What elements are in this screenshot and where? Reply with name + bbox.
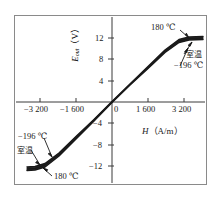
y-axis-title: Eout（V） xyxy=(68,24,81,62)
y-axis-subscript: out xyxy=(74,49,80,57)
annotation-roomtemp-top: 室温 xyxy=(186,48,202,59)
y-axis-symbol: E xyxy=(70,56,80,62)
y-tick-label-neg-12: −12 xyxy=(89,161,102,171)
figure-canvas: Eout（V） H（A/m） −3 200 −1 600 0 1 600 3 2… xyxy=(0,0,222,200)
y-tick-label-neg-4: −4 xyxy=(93,118,102,128)
y-axis-unit: （V） xyxy=(70,24,80,49)
y-tick-label-4: 4 xyxy=(99,76,103,86)
plot-surface xyxy=(0,0,222,200)
x-tick-label-neg-3200: −3 200 xyxy=(24,104,48,114)
x-tick-label-neg-1600: −1 600 xyxy=(60,104,84,114)
y-tick-label-8: 8 xyxy=(99,54,103,64)
annotation-minus196c-bottom: −196 ℃ xyxy=(18,131,47,141)
arrowhead-180-bottom xyxy=(43,168,48,171)
x-tick-label-1600: 1 600 xyxy=(136,104,155,114)
y-tick-label-12: 12 xyxy=(95,33,104,43)
arrowhead-minus196-bottom xyxy=(48,153,52,157)
arrowhead-roomtemp-top xyxy=(188,42,192,46)
x-axis-unit: （A/m） xyxy=(149,126,183,136)
x-tick-label-3200: 3 200 xyxy=(172,104,191,114)
annotation-180c-bottom: 180 ℃ xyxy=(54,171,78,181)
annotation-180c-top: 180 ℃ xyxy=(151,22,175,32)
x-tick-label-origin: 0 xyxy=(114,104,118,114)
annotation-roomtemp-bottom: 室温 xyxy=(17,144,33,155)
x-axis-title: H（A/m） xyxy=(142,120,183,138)
y-tick-label-neg-8: −8 xyxy=(93,140,102,150)
annotation-minus196c-top: −196 ℃ xyxy=(174,60,203,70)
